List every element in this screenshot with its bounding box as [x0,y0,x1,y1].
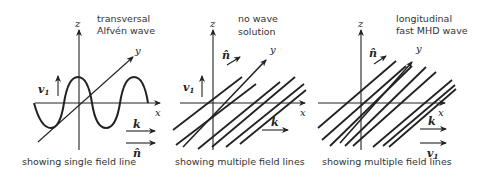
x-label: x [438,107,444,118]
panel-title-line1: transversal [97,13,150,24]
z-label: z [209,18,216,29]
panel-fast-mhd-wave: z y x n̂ k v1 longitudinal fast MHD wave… [318,13,468,167]
field-lines [173,60,306,149]
panel-title-line2: solution [238,26,276,37]
panel-no-wave: z y x n̂ v1 k no wave solution showing m… [173,13,306,167]
field-lines [318,61,456,147]
panel-title-line1: no wave [238,13,278,24]
y-label: y [415,43,422,54]
n-label: n̂ [222,49,230,62]
panel-title-line2: fast MHD wave [396,25,468,36]
v1-label: v1 [38,83,49,97]
panel-caption: showing multiple field lines [322,156,452,167]
v1-label: v1 [183,81,194,95]
panel-title-line2: Alfvén wave [97,25,155,36]
mhd-wave-diagram: z y x v1 k n̂ transversal Alfvén wave sh… [0,0,478,178]
n-label: n̂ [369,47,377,60]
panel-caption: showing single field line [22,156,136,167]
x-label: x [300,107,306,118]
k-label: k [133,118,141,131]
y-label: y [269,44,276,55]
panel-title-line1: longitudinal [396,13,452,24]
z-label: z [74,18,81,29]
y-axis [38,57,133,142]
panel-caption: showing multiple field lines [175,156,305,167]
z-label: z [357,18,364,29]
panel-alfven-wave: z y x v1 k n̂ transversal Alfvén wave sh… [22,13,161,167]
y-label: y [134,45,141,56]
k-label: k [271,116,279,129]
x-label: x [155,107,161,118]
k-label: k [428,115,436,128]
